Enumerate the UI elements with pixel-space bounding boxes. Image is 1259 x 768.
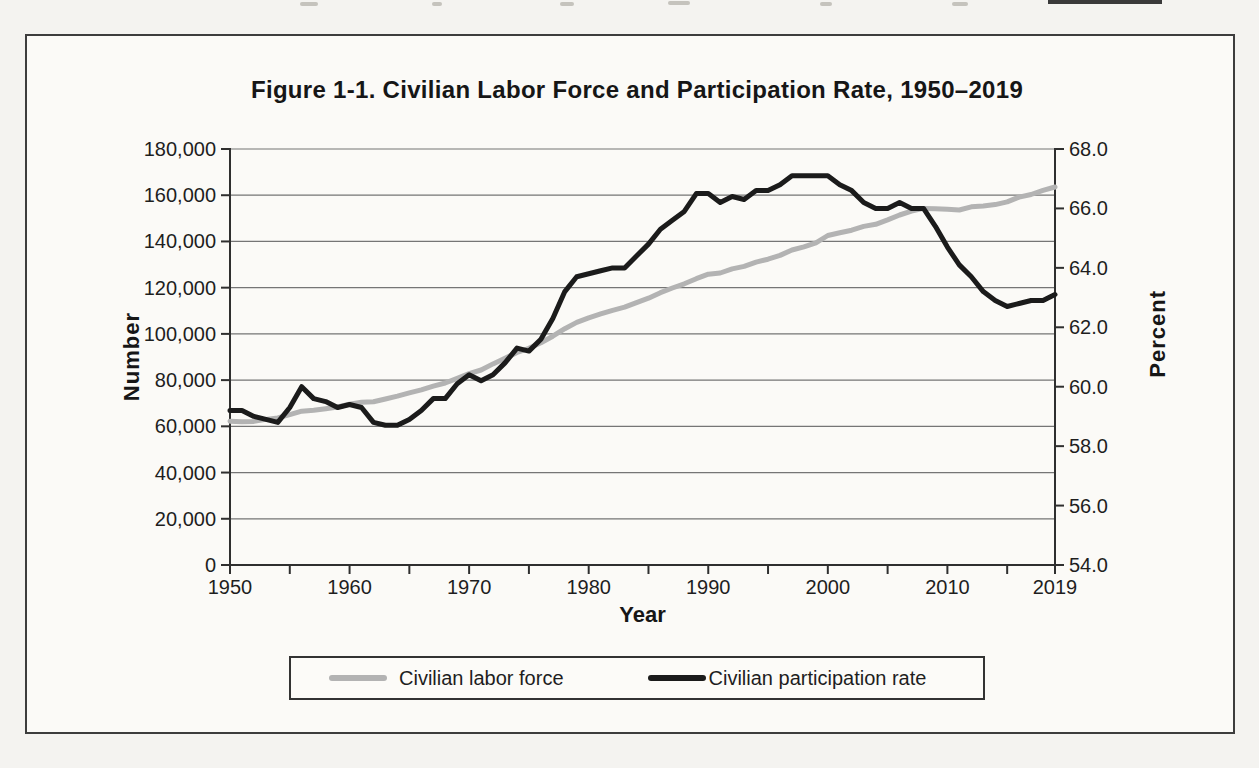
x-axis-tick-label: 2010 [925, 576, 970, 598]
legend-item-participation-rate: Civilian participation rate [648, 667, 927, 690]
right-axis-title: Percent [1145, 290, 1171, 378]
legend-item-labor-force: Civilian labor force [329, 667, 564, 690]
x-axis-tick-label: 1990 [686, 576, 731, 598]
left-axis-tick-label: 80,000 [155, 369, 216, 391]
legend: Civilian labor force Civilian participat… [289, 656, 985, 700]
right-axis-tick-label: 66.0 [1069, 197, 1108, 219]
left-axis-tick-label: 100,000 [144, 323, 216, 345]
legend-label: Civilian participation rate [709, 667, 927, 690]
figure-frame: Figure 1-1. Civilian Labor Force and Par… [25, 34, 1235, 734]
x-axis-tick-label: 1980 [566, 576, 611, 598]
left-axis-tick-label: 140,000 [144, 230, 216, 252]
right-axis-tick-label: 58.0 [1069, 435, 1108, 457]
x-axis-tick-label: 1970 [447, 576, 492, 598]
left-axis-tick-label: 40,000 [155, 462, 216, 484]
x-axis-tick-label: 2000 [806, 576, 851, 598]
left-axis-tick-label: 20,000 [155, 508, 216, 530]
left-axis-title: Number [119, 312, 145, 401]
x-axis-tick-label: 1950 [208, 576, 253, 598]
x-axis-tick-label: 1960 [327, 576, 372, 598]
scanned-page: { "title": "Figure 1-1. Civilian Labor F… [0, 0, 1259, 768]
participation-rate-line-sample [648, 675, 706, 681]
x-axis-title: Year [230, 602, 1055, 628]
left-axis-tick-label: 120,000 [144, 277, 216, 299]
right-axis-tick-label: 56.0 [1069, 495, 1108, 517]
left-axis-tick-label: 160,000 [144, 184, 216, 206]
chart-canvas: 180,000160,000140,000120,000100,00080,00… [27, 36, 1237, 736]
x-axis-tick-label: 2019 [1033, 576, 1078, 598]
left-axis-tick-label: 60,000 [155, 415, 216, 437]
cropped-rule-remnant [1048, 0, 1162, 4]
left-axis-tick-label: 0 [205, 554, 216, 576]
left-axis-tick-label: 180,000 [144, 138, 216, 160]
labor-force-line-sample [329, 675, 387, 681]
right-axis-tick-label: 54.0 [1069, 554, 1108, 576]
right-axis-tick-label: 62.0 [1069, 316, 1108, 338]
right-axis-tick-label: 68.0 [1069, 138, 1108, 160]
right-axis-tick-label: 64.0 [1069, 257, 1108, 279]
right-axis-tick-label: 60.0 [1069, 376, 1108, 398]
legend-label: Civilian labor force [399, 667, 564, 690]
